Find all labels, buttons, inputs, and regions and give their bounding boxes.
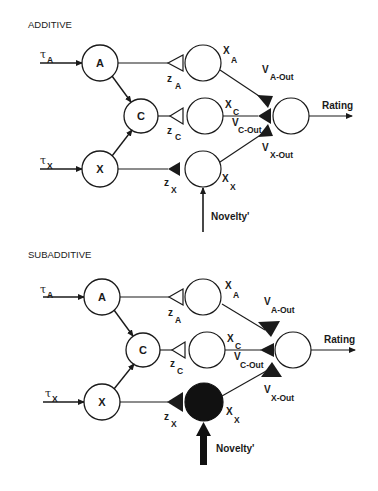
model-diagram: ADDITIVE τ A A z A X A C z C <box>0 0 378 491</box>
svg-text:A: A <box>231 55 237 65</box>
svg-text:τ: τ <box>40 283 46 296</box>
svg-text:C-Out: C-Out <box>238 125 262 135</box>
svg-text:X: X <box>226 406 233 417</box>
novelty-label: Novelty' <box>216 443 255 454</box>
svg-text:A: A <box>47 290 53 300</box>
svg-text:A: A <box>233 290 239 300</box>
svg-text:z: z <box>167 73 172 84</box>
svg-text:A: A <box>96 57 104 69</box>
synapse-z-a-icon <box>169 289 183 305</box>
svg-text:A: A <box>98 291 106 303</box>
svg-text:C: C <box>175 132 181 142</box>
svg-text:z: z <box>164 177 169 188</box>
svg-text:C: C <box>177 366 183 376</box>
svg-text:τ: τ <box>40 154 46 167</box>
unit-x-c <box>187 98 223 134</box>
output-unit <box>273 98 309 134</box>
synapse-z-x-icon <box>167 392 183 412</box>
unit-x-c <box>189 332 225 368</box>
unit-x-a <box>185 279 221 315</box>
synapse-z-c-icon <box>172 342 185 358</box>
svg-text:V: V <box>262 142 269 153</box>
unit-x-a <box>185 45 221 81</box>
svg-text:V: V <box>264 384 271 395</box>
svg-text:X: X <box>225 280 232 291</box>
synapse-z-c-icon <box>170 108 183 124</box>
svg-text:V: V <box>262 64 269 75</box>
svg-text:A: A <box>175 81 181 91</box>
input-tau-x: τ X <box>43 387 84 404</box>
panel-subadditive: SUBADDITIVE τ A A z A X A C z C X C τ <box>28 249 355 465</box>
svg-text:X: X <box>222 173 229 184</box>
svg-text:X-Out: X-Out <box>270 150 293 160</box>
node-x: X <box>82 151 118 187</box>
input-tau-a: τ A <box>40 283 84 300</box>
synapse-v-a-icon <box>257 95 273 108</box>
panel-title: ADDITIVE <box>28 19 72 30</box>
svg-text:X: X <box>234 415 240 425</box>
svg-text:X: X <box>171 419 177 429</box>
output-unit <box>275 332 311 368</box>
svg-text:τ: τ <box>45 387 51 400</box>
svg-text:X: X <box>225 99 232 110</box>
svg-text:X: X <box>227 333 234 344</box>
svg-text:C-Out: C-Out <box>240 360 264 370</box>
svg-text:A-Out: A-Out <box>271 305 295 315</box>
node-c: C <box>124 99 158 133</box>
novelty-arrow-strong <box>196 422 211 465</box>
node-a: A <box>82 45 118 81</box>
svg-text:X: X <box>171 185 177 195</box>
panel-additive: ADDITIVE τ A A z A X A C z C <box>28 19 353 232</box>
svg-text:z: z <box>168 307 173 318</box>
synapse-v-a-icon <box>258 321 280 337</box>
svg-text:A: A <box>175 315 181 325</box>
svg-text:z: z <box>164 411 169 422</box>
synapse-v-c-icon <box>260 343 274 357</box>
svg-text:X: X <box>230 182 236 192</box>
unit-x-x-active <box>185 383 223 421</box>
node-x: X <box>84 384 120 420</box>
svg-text:V: V <box>264 296 271 307</box>
novelty-label: Novelty' <box>211 211 250 222</box>
rating-label: Rating <box>324 334 355 345</box>
input-tau-x: τ X <box>40 154 82 171</box>
svg-text:X-Out: X-Out <box>271 393 294 403</box>
svg-text:X: X <box>223 45 230 56</box>
synapse-z-a-icon <box>168 55 183 71</box>
synapse-v-x-icon <box>261 362 282 377</box>
svg-text:C: C <box>139 344 147 356</box>
svg-text:z: z <box>167 125 172 136</box>
rating-label: Rating <box>322 100 353 111</box>
svg-text:X: X <box>96 163 104 175</box>
node-c: C <box>126 333 160 367</box>
synapse-z-x-icon <box>168 162 180 176</box>
input-tau-a: τ A <box>40 48 82 65</box>
svg-text:z: z <box>170 358 175 369</box>
svg-text:τ: τ <box>40 48 46 61</box>
unit-x-x <box>185 151 221 187</box>
panel-title: SUBADDITIVE <box>28 249 91 260</box>
svg-text:C: C <box>137 110 145 122</box>
node-a: A <box>84 279 120 315</box>
svg-text:A-Out: A-Out <box>270 72 294 82</box>
synapse-v-c-icon <box>258 108 271 124</box>
svg-text:X: X <box>98 396 106 408</box>
